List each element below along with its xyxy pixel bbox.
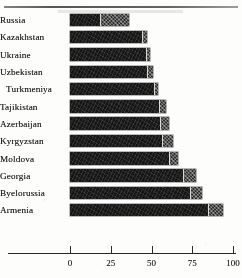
category-label: Azerbaijan	[0, 119, 62, 129]
bar-row: Russia	[0, 12, 242, 29]
category-label: Tajikistan	[0, 102, 62, 112]
bar-segment-b	[208, 204, 224, 217]
bar	[70, 48, 150, 61]
x-axis-tick-label: 0	[68, 258, 73, 268]
bar-segment-a	[70, 66, 147, 79]
bar	[70, 204, 223, 217]
bar-segment-a	[70, 100, 159, 113]
bar	[70, 187, 202, 200]
bar	[70, 100, 166, 113]
bar-row: Byelorussia	[0, 185, 242, 202]
category-label: Moldova	[0, 154, 62, 164]
bar-row: Kazakhstan	[0, 29, 242, 46]
bar-segment-b	[183, 169, 195, 182]
bar-segment-a	[70, 14, 100, 27]
bar	[70, 66, 153, 79]
bar-segment-b	[142, 31, 146, 44]
bar-segment-b	[190, 187, 202, 200]
bar	[70, 31, 147, 44]
bar-segment-a	[70, 135, 162, 148]
bar-segment-a	[70, 83, 154, 96]
category-label: Russia	[0, 15, 62, 25]
bar-segment-b	[169, 152, 178, 165]
bar-row: Moldova	[0, 150, 242, 167]
bar-row: Armenia	[0, 202, 242, 219]
x-axis-tick	[192, 246, 193, 254]
bar-row: Azerbaijan	[0, 115, 242, 132]
bar	[70, 152, 178, 165]
plot-area: RussiaKazakhstanUkraineUzbekistanTurkmen…	[0, 11, 242, 237]
x-axis-tick-label: 50	[147, 258, 156, 268]
bar-segment-a	[70, 187, 190, 200]
x-axis-tick	[70, 246, 71, 254]
top-divider-rule	[4, 6, 238, 8]
x-axis-tick	[152, 246, 153, 254]
bar-segment-b	[160, 117, 169, 130]
x-axis-tick-label: 25	[106, 258, 115, 268]
bar-segment-b	[162, 135, 173, 148]
bar	[70, 135, 173, 148]
bar-row: Kyrgyzstan	[0, 133, 242, 150]
bar	[70, 14, 129, 27]
x-axis-tick-label: 75	[188, 258, 197, 268]
x-axis-line	[8, 253, 236, 254]
x-axis-tick	[111, 246, 112, 254]
bar	[70, 169, 196, 182]
bar-row: Georgia	[0, 167, 242, 184]
bar-segment-b	[154, 83, 158, 96]
bar-segment-a	[70, 169, 183, 182]
category-label: Georgia	[0, 171, 62, 181]
x-axis-tick	[233, 246, 234, 254]
bar-segment-b	[100, 14, 128, 27]
bar-chart: RussiaKazakhstanUkraineUzbekistanTurkmen…	[0, 0, 242, 278]
bar	[70, 117, 169, 130]
bar-segment-a	[70, 48, 146, 61]
bar-segment-a	[70, 204, 208, 217]
bar-row: Turkmeniya	[0, 81, 242, 98]
bar-segment-a	[70, 117, 160, 130]
bar-segment-a	[70, 152, 169, 165]
category-label: Ukraine	[0, 50, 62, 60]
category-label: Kazakhstan	[0, 32, 62, 42]
category-label: Uzbekistan	[0, 67, 62, 77]
bar-row: Tajikistan	[0, 98, 242, 115]
category-label: Armenia	[0, 205, 62, 215]
category-label: Turkmeniya	[0, 84, 68, 94]
category-label: Kyrgyzstan	[0, 136, 62, 146]
bar-segment-a	[70, 31, 142, 44]
bar-row: Ukraine	[0, 46, 242, 63]
bar	[70, 83, 158, 96]
x-axis-tick-label: 100	[226, 258, 240, 268]
bar-segment-b	[147, 66, 153, 79]
bar-segment-b	[146, 48, 150, 61]
bar-segment-b	[159, 100, 166, 113]
category-label: Byelorussia	[0, 188, 62, 198]
x-axis: 0255075100	[0, 243, 242, 278]
bar-row: Uzbekistan	[0, 63, 242, 80]
